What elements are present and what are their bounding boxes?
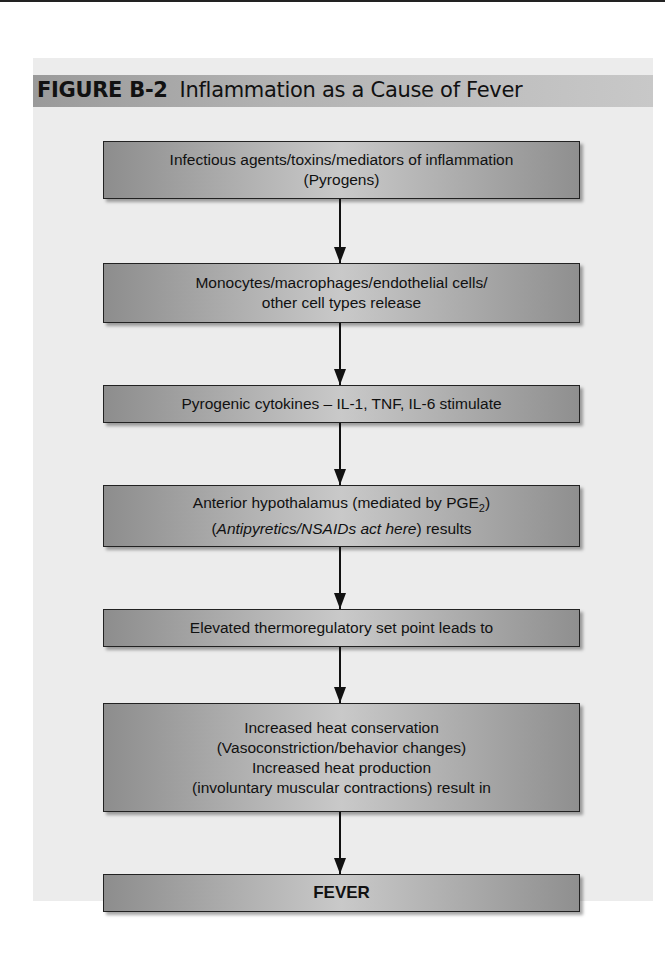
step-text: Increased heat production [252,758,431,778]
flow-step-hypothalamus: Anterior hypothalamus (mediated by PGE2)… [103,485,580,547]
step-text-part: ) [485,494,490,511]
figure-title: FIGURE B-2Inflammation as a Cause of Fev… [37,78,522,102]
arrow-down-icon [334,647,346,703]
step-text: Monocytes/macrophages/endothelial cells/ [195,273,487,293]
step-text: other cell types release [262,293,421,313]
flow-step-pyrogens: Infectious agents/toxins/mediators of in… [103,141,580,199]
figure-title-bar: FIGURE B-2Inflammation as a Cause of Fev… [33,75,653,107]
flow-step-cytokines: Pyrogenic cytokines – IL-1, TNF, IL-6 st… [103,385,580,423]
step-text: (Antipyretics/NSAIDs act here) results [211,519,471,539]
step-text-part: Anterior hypothalamus (mediated by PGE [193,494,479,511]
arrow-down-icon [334,199,346,263]
step-text: Increased heat conservation [244,718,439,738]
arrow-down-icon [334,812,346,874]
italic-note: Antipyretics/NSAIDs act here [217,520,417,537]
flow-step-cells-release: Monocytes/macrophages/endothelial cells/… [103,263,580,323]
step-text: (involuntary muscular contractions) resu… [192,778,491,798]
step-text: FEVER [313,883,370,903]
arrow-down-icon [334,547,346,609]
step-text: (Vasoconstriction/behavior changes) [217,738,467,758]
step-text: Infectious agents/toxins/mediators of in… [170,150,514,170]
step-text: Elevated thermoregulatory set point lead… [190,618,493,638]
flow-step-fever: FEVER [103,874,580,912]
flow-step-set-point: Elevated thermoregulatory set point lead… [103,609,580,647]
arrow-down-icon [334,423,346,485]
top-rule [0,0,665,2]
figure-caption: Inflammation as a Cause of Fever [180,78,523,102]
step-text: (Pyrogens) [304,170,380,190]
step-text-part: ) results [416,520,471,537]
step-text: Pyrogenic cytokines – IL-1, TNF, IL-6 st… [181,394,501,414]
figure-label: FIGURE B-2 [37,78,168,102]
flow-step-heat-responses: Increased heat conservation (Vasoconstri… [103,703,580,812]
arrow-down-icon [334,323,346,385]
step-text: Anterior hypothalamus (mediated by PGE2) [193,493,490,518]
